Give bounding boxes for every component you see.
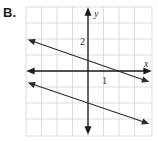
x-tick-label-1: 1: [102, 75, 107, 86]
y-tick-label-2: 2: [80, 36, 85, 47]
coordinate-plane: y x 2 1: [0, 0, 158, 142]
y-axis-label: y: [93, 8, 99, 19]
x-axis: [28, 69, 150, 74]
x-axis-label: x: [143, 58, 149, 69]
